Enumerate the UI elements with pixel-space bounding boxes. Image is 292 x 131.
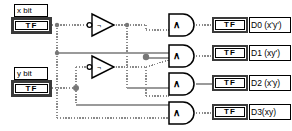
d2-indicator-label: D2 (x'y): [249, 75, 291, 91]
not-gate-x-shape: [87, 14, 114, 36]
d1-indicator-terminal[interactable]: TF: [212, 45, 248, 61]
not-gate-y-shape: [87, 56, 114, 78]
y-bit-terminal[interactable]: TF: [11, 80, 52, 97]
junction-noty: [143, 54, 149, 60]
y-bit-terminal-text: TF: [15, 84, 48, 93]
d0-indicator-terminal[interactable]: TF: [212, 17, 248, 33]
d3-indicator-label: D3(xy): [249, 104, 291, 120]
and-gate-1-shape: [169, 45, 194, 67]
wire-junctions: [55, 23, 149, 91]
d0-indicator-text: TF: [215, 20, 245, 30]
block-diagram-canvas[interactable]: ¬ ¬ ∧ ∧ ∧ ∧ x bit TF y bit TF TF D0 (x'y…: [0, 0, 292, 131]
d3-indicator-terminal[interactable]: TF: [212, 104, 248, 120]
d3-indicator-text: TF: [215, 107, 245, 117]
x-bit-terminal-text: TF: [15, 21, 48, 30]
junction-x-1: [55, 23, 59, 27]
d2-indicator-text: TF: [215, 78, 245, 88]
x-bit-label: x bit: [14, 4, 48, 17]
y-bit-label: y bit: [14, 67, 48, 80]
x-bit-terminal[interactable]: TF: [11, 17, 52, 34]
d1-indicator-label: D1 (xy'): [249, 45, 291, 61]
junction-y-1: [73, 85, 79, 91]
and-gate-2-shape: [169, 73, 194, 95]
d1-indicator-text: TF: [215, 48, 245, 58]
wire-noty-to-and1: [146, 60, 169, 67]
junction-notx: [125, 23, 129, 27]
d2-indicator-terminal[interactable]: TF: [212, 75, 248, 91]
d0-indicator-label: D0 (x'y'): [249, 17, 291, 33]
junction-x-2: [55, 51, 59, 55]
and-gate-3-shape: [169, 102, 194, 124]
and-gate-0-shape: [169, 14, 194, 36]
